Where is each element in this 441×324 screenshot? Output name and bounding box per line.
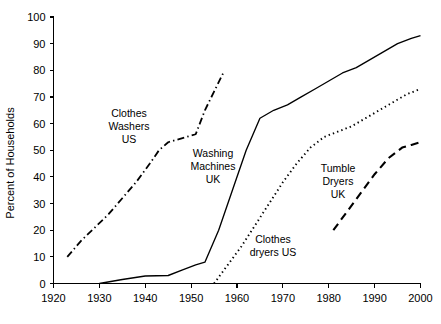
y-tick-label-10: 10 xyxy=(33,251,45,263)
x-tick-label-1930: 1930 xyxy=(87,292,111,304)
y-tick-label-50: 50 xyxy=(33,144,45,156)
annotation-clothes-dryers-us: Clothesdryers US xyxy=(250,233,297,258)
annotation-line: dryers US xyxy=(250,246,297,258)
x-axis-ticks xyxy=(54,284,421,288)
y-tick-label-70: 70 xyxy=(33,91,45,103)
y-axis-title-label: Percent of Households xyxy=(4,107,16,219)
x-tick-label-1920: 1920 xyxy=(41,292,65,304)
y-tick-label-0: 0 xyxy=(39,278,45,290)
annotation-line: UK xyxy=(206,173,221,185)
annotation-tumble-dryers-uk: TumbleDryersUK xyxy=(321,162,356,200)
annotation-line: Clothes xyxy=(255,233,291,245)
x-tick-label-1990: 1990 xyxy=(362,292,386,304)
annotation-line: Machines xyxy=(191,160,236,172)
x-tick-label-1950: 1950 xyxy=(179,292,203,304)
x-tick-label-1940: 1940 xyxy=(133,292,157,304)
y-tick-label-100: 100 xyxy=(27,11,45,23)
annotation-washing-machines-uk: WashingMachinesUK xyxy=(191,147,236,185)
annotation-line: Clothes xyxy=(111,107,147,119)
y-tick-label-20: 20 xyxy=(33,224,45,236)
annotation-line: Dryers xyxy=(323,175,354,187)
annotation-line: UK xyxy=(331,188,346,200)
x-axis: 192019301940195019601970198019902000 xyxy=(41,284,432,304)
y-tick-label-40: 40 xyxy=(33,171,45,183)
y-tick-label-30: 30 xyxy=(33,198,45,210)
x-tick-label-2000: 2000 xyxy=(408,292,432,304)
x-tick-label-1980: 1980 xyxy=(317,292,341,304)
annotation-clothes-washers-us: ClothesWashersUS xyxy=(108,107,149,145)
annotation-line: Washers xyxy=(108,120,149,132)
x-axis-tick-labels: 192019301940195019601970198019902000 xyxy=(41,292,432,304)
x-tick-label-1960: 1960 xyxy=(225,292,249,304)
x-tick-label-1970: 1970 xyxy=(271,292,295,304)
line-chart: Percent of Households 010203040506070809… xyxy=(0,0,441,324)
chart-annotations-group: ClothesWashersUSWashingMachinesUKClothes… xyxy=(108,107,355,258)
annotation-line: Washing xyxy=(193,147,234,159)
y-axis-ticks xyxy=(50,17,54,284)
y-axis: 0102030405060708090100 xyxy=(27,11,53,290)
chart-series-group xyxy=(67,36,420,284)
y-tick-label-60: 60 xyxy=(33,118,45,130)
y-tick-label-80: 80 xyxy=(33,64,45,76)
y-axis-title: Percent of Households xyxy=(4,107,16,219)
series-line-clothes-dryers-us xyxy=(214,89,420,284)
annotation-line: US xyxy=(122,133,137,145)
annotation-line: Tumble xyxy=(321,162,356,174)
y-axis-tick-labels: 0102030405060708090100 xyxy=(27,11,45,290)
chart-container: Percent of Households 010203040506070809… xyxy=(0,0,441,324)
y-tick-label-90: 90 xyxy=(33,38,45,50)
